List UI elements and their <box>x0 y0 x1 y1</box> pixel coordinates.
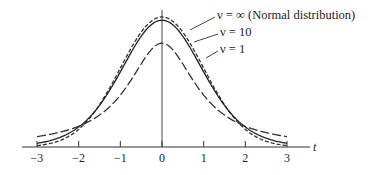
x-axis-ticks: −3−2−10123 <box>31 141 290 165</box>
t-distribution-chart: −3−2−10123 t ν = ∞ (Normal distribution)… <box>0 0 371 175</box>
legend-nu10: ν = 10 <box>220 25 251 39</box>
x-tick-label: −3 <box>31 151 44 165</box>
leader-line-normal <box>190 17 215 30</box>
x-tick-label: 3 <box>284 151 290 165</box>
x-tick-label: −2 <box>72 151 85 165</box>
legend-nu1: ν = 1 <box>220 42 245 56</box>
x-tick-label: 0 <box>159 151 165 165</box>
x-axis-label: t <box>313 140 317 154</box>
legend-normal: ν = ∞ (Normal distribution) <box>217 8 355 22</box>
x-tick-label: 2 <box>242 151 248 165</box>
x-tick-label: 1 <box>201 151 207 165</box>
leader-line-nu10 <box>194 34 218 42</box>
leader-line-nu1 <box>206 51 218 58</box>
x-tick-label: −1 <box>114 151 127 165</box>
